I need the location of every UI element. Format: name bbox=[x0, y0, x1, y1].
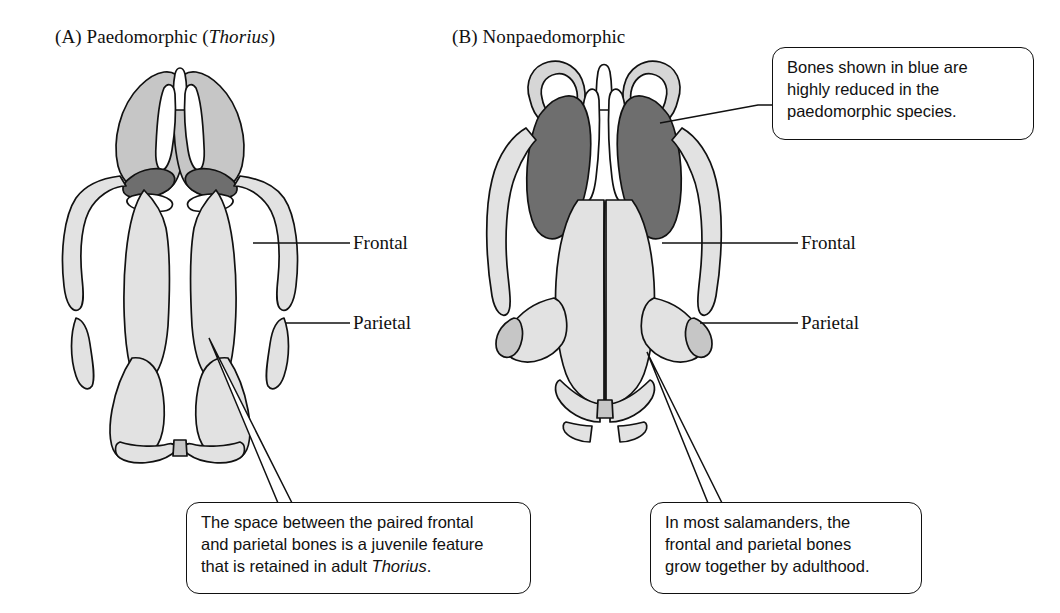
callout-juvenile-line3-genus: Thorius bbox=[372, 557, 427, 575]
callout-adult-fusion: In most salamanders, the frontal and par… bbox=[650, 502, 922, 594]
pointer-juvenile-feature bbox=[209, 338, 292, 503]
callout-adult-line3: grow together by adulthood. bbox=[665, 556, 908, 578]
callout-juvenile-feature: The space between the paired frontal and… bbox=[186, 502, 531, 594]
callout-juvenile-line2: and parietal bones is a juvenile feature bbox=[201, 534, 517, 556]
callout-juvenile-line1: The space between the paired frontal bbox=[201, 512, 517, 534]
callout-blue-bones-line2: highly reduced in the bbox=[787, 79, 1020, 101]
callout-adult-line1: In most salamanders, the bbox=[665, 512, 908, 534]
callout-juvenile-line3-suffix: . bbox=[427, 557, 432, 575]
pointer-blue-bones bbox=[660, 105, 772, 123]
callout-blue-bones-line1: Bones shown in blue are bbox=[787, 57, 1020, 79]
callout-blue-bones-line3: paedomorphic species. bbox=[787, 101, 1020, 123]
callout-juvenile-line3: that is retained in adult Thorius. bbox=[201, 556, 517, 578]
callout-adult-line2: frontal and parietal bones bbox=[665, 534, 908, 556]
pointer-adult-fusion bbox=[647, 352, 722, 503]
callout-blue-bones: Bones shown in blue are highly reduced i… bbox=[772, 47, 1034, 140]
callout-juvenile-line3-prefix: that is retained in adult bbox=[201, 557, 372, 575]
